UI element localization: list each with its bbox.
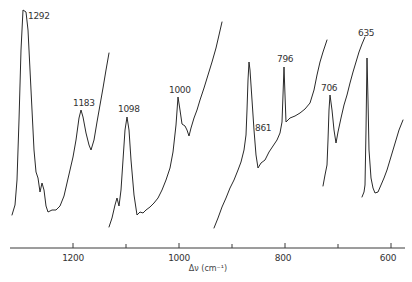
peak-label-796: 796 [277,54,294,64]
spectrum-traces [12,10,403,228]
peak-label-1000: 1000 [169,85,191,95]
peak-label-1183: 1183 [73,98,95,108]
x-axis: 1200 1000 800 600 Δν (cm⁻¹) [10,243,405,273]
tick-label-1200: 1200 [62,253,84,263]
peak-label-635: 635 [358,28,374,38]
peak-label-706: 706 [321,83,338,93]
spectrum-segment-2 [109,22,222,227]
peak-label-861: 861 [255,123,271,133]
spectrum-segment-1 [12,10,109,215]
peak-label-1098: 1098 [118,104,140,114]
raman-spectrum-chart: 1292118310981000861796706635 1200 1000 8… [0,0,412,282]
tick-label-1000: 1000 [168,253,190,263]
spectrum-segment-5 [362,58,403,197]
peak-label-1292: 1292 [28,11,50,21]
x-axis-title: Δν (cm⁻¹) [189,264,227,273]
tick-label-800: 800 [275,253,292,263]
spectrum-segment-3 [214,40,327,228]
spectrum-segment-4 [323,37,365,186]
x-axis-ticks [73,243,391,248]
tick-label-600: 600 [380,253,397,263]
